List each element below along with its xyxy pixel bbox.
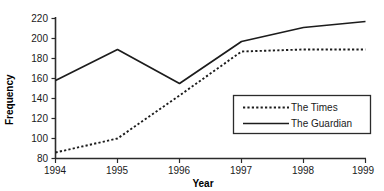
- y-axis-title: Frequency: [4, 74, 15, 125]
- chart-canvas: 220 200 180 160 140 120 100 80 1994 1995…: [0, 0, 384, 191]
- x-tick-label-1999: 1999: [352, 165, 375, 176]
- y-tick-label-100: 100: [31, 133, 48, 144]
- y-tick-label-180: 180: [31, 53, 48, 64]
- y-tick-label-80: 80: [37, 153, 49, 164]
- y-tick-label-220: 220: [31, 13, 48, 24]
- x-tick-label-1996: 1996: [168, 165, 191, 176]
- y-tick-label-160: 160: [31, 73, 48, 84]
- x-tick-label-1997: 1997: [230, 165, 253, 176]
- legend-label-the-times: The Times: [291, 102, 338, 113]
- y-tick-label-120: 120: [31, 113, 48, 124]
- y-tick-label-200: 200: [31, 33, 48, 44]
- y-tick-label-140: 140: [31, 93, 48, 104]
- legend: The Times The Guardian: [234, 96, 371, 134]
- x-tick-label-1998: 1998: [292, 165, 315, 176]
- x-axis-title: Year: [192, 178, 213, 189]
- x-tick-label-1994: 1994: [44, 165, 67, 176]
- legend-label-the-guardian: The Guardian: [291, 118, 352, 129]
- line-chart: 220 200 180 160 140 120 100 80 1994 1995…: [0, 0, 384, 191]
- x-tick-label-1995: 1995: [106, 165, 129, 176]
